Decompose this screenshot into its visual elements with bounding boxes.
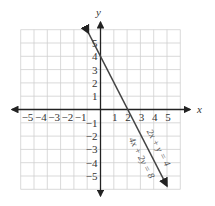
y-axis-label: y: [95, 6, 101, 18]
x-tick-label: −4: [35, 111, 47, 123]
coordinate-plane: x y −5−4−3−2−11234554321−1−2−3−4−5 2x + …: [0, 0, 215, 206]
x-tick-label: 1: [112, 111, 118, 123]
y-tick-label: −5: [86, 170, 98, 182]
y-tick-label: 4: [92, 50, 98, 62]
x-axis-label: x: [196, 103, 202, 115]
y-tick-label: −1: [86, 117, 98, 129]
y-tick-label: 1: [92, 90, 98, 102]
x-tick-label: 5: [165, 111, 171, 123]
y-tick-label: −4: [86, 157, 98, 169]
x-tick-label: 4: [152, 111, 158, 123]
y-tick-label: 3: [92, 64, 98, 76]
x-tick-label: −2: [62, 111, 74, 123]
x-tick-label: −3: [48, 111, 60, 123]
y-tick-label: −3: [86, 143, 98, 155]
y-tick-label: 2: [92, 77, 98, 89]
x-tick-label: 3: [139, 111, 145, 123]
y-tick-label: −2: [86, 130, 98, 142]
x-tick-label: −5: [22, 111, 34, 123]
